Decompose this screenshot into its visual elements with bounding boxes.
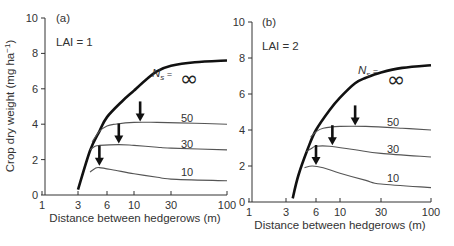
x-tick-label: 1 xyxy=(246,206,252,218)
series-30-line xyxy=(306,146,431,157)
series-10-line xyxy=(90,167,227,180)
series-infinity-line xyxy=(293,65,431,198)
arrow-down-icon xyxy=(95,146,104,166)
x-axis-label-a: Distance between hedgerows (m) xyxy=(49,212,220,224)
x-tick-label: 10 xyxy=(334,206,346,218)
curves-b xyxy=(293,65,431,198)
x-tick-label: 10 xyxy=(128,199,140,211)
infinity-label-b: ∞ xyxy=(387,67,405,92)
hedgerow-chart: (a) LAI = 1 Crop dry weight (mg ha−1) Di… xyxy=(0,0,454,246)
y-tick-label: 8 xyxy=(32,47,38,59)
series-50-label-a: 50 xyxy=(181,112,193,124)
series-30-label-a: 30 xyxy=(181,138,193,150)
x-tick-label: 6 xyxy=(313,206,319,218)
curves-a xyxy=(78,61,227,190)
series-50-label-b: 50 xyxy=(387,116,399,128)
y-tick-label: 0 xyxy=(32,189,38,201)
series-infinity-line xyxy=(78,61,227,190)
arrow-down-icon xyxy=(351,105,360,125)
y-tick-label: 10 xyxy=(233,16,245,28)
arrow-down-icon xyxy=(136,101,145,121)
x-axis-label-b: Distance between hedgerows (m) xyxy=(254,219,425,231)
x-tick-label: 3 xyxy=(75,199,81,211)
arrow-down-icon xyxy=(328,125,337,145)
x-tick-label: 6 xyxy=(104,199,110,211)
series-30-label-b: 30 xyxy=(387,143,399,155)
y-axis-label-a: Crop dry weight (mg ha−1) xyxy=(3,40,16,173)
x-tick-label: 3 xyxy=(283,206,289,218)
panel-b: (b) LAI = 2 Distance between hedgerows (… xyxy=(233,16,440,231)
series-10-label-a: 10 xyxy=(181,166,193,178)
y-tick-label: 2 xyxy=(32,154,38,166)
panel-a-lai: LAI = 1 xyxy=(56,36,93,48)
panel-a-label: (a) xyxy=(56,12,70,24)
y-tick-label: 6 xyxy=(32,83,38,95)
ns-label-b: Ns = xyxy=(358,64,378,79)
infinity-label-a: ∞ xyxy=(180,66,198,91)
x-tick-label: 30 xyxy=(375,206,387,218)
y-tick-label: 10 xyxy=(26,12,38,24)
x-tick-label: 100 xyxy=(218,199,236,211)
y-tick-label: 4 xyxy=(239,124,245,136)
arrow-down-icon xyxy=(114,124,123,144)
y-tick-label: 0 xyxy=(239,196,245,208)
x-tick-label: 30 xyxy=(165,199,177,211)
series-10-label-b: 10 xyxy=(387,172,399,184)
series-50-line xyxy=(311,126,431,137)
panel-b-lai: LAI = 2 xyxy=(262,40,299,52)
panel-b-label: (b) xyxy=(262,16,276,28)
series-30-line xyxy=(90,145,227,150)
panel-a: (a) LAI = 1 Crop dry weight (mg ha−1) Di… xyxy=(3,12,236,224)
y-tick-label: 2 xyxy=(239,160,245,172)
y-tick-label: 6 xyxy=(239,88,245,100)
series-10-line xyxy=(305,166,432,188)
x-tick-label: 1 xyxy=(39,199,45,211)
series-50-line xyxy=(92,122,227,142)
y-tick-label: 4 xyxy=(32,118,38,130)
y-tick-label: 8 xyxy=(239,52,245,64)
x-tick-label: 100 xyxy=(422,206,440,218)
